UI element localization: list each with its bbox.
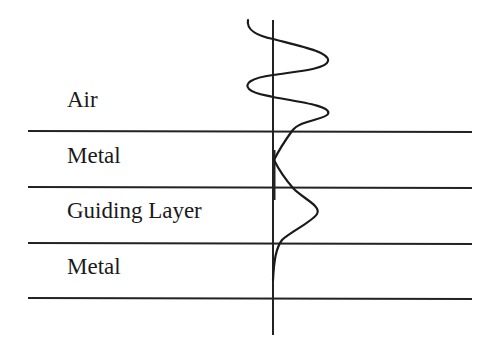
layer-label-guiding-layer: Guiding Layer — [67, 199, 202, 222]
layer-label-metal-top: Metal — [67, 144, 121, 167]
boundary-metal-bottom — [28, 298, 472, 299]
waveguide-diagram: Air Metal Guiding Layer Metal — [0, 0, 487, 347]
field-profile-curve — [247, 20, 328, 280]
boundary-metal-guiding — [28, 187, 472, 188]
diagram-canvas — [0, 0, 487, 347]
layer-label-metal-bottom: Metal — [67, 255, 121, 278]
boundary-guiding-metal — [28, 243, 472, 244]
layer-label-air: Air — [67, 88, 98, 111]
boundary-air-metal — [28, 131, 472, 132]
